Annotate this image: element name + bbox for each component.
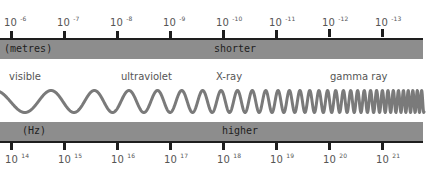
frequency-bar: (Hz) higher: [0, 122, 423, 141]
frequency-tick-label: 1017: [164, 152, 188, 165]
frequency-tick-mark: [63, 142, 66, 150]
frequency-tick-label: 1015: [58, 152, 82, 165]
tick-exponent: 21: [392, 152, 400, 159]
frequency-tick-mark: [381, 142, 384, 150]
tick-base: 10: [270, 154, 283, 165]
frequency-tick-label: 1019: [270, 152, 294, 165]
tick-base: 10: [5, 154, 18, 165]
tick-base: 10: [164, 154, 177, 165]
tick-exponent: 16: [127, 152, 135, 159]
frequency-direction-label: higher: [222, 125, 258, 136]
frequency-tick-label: 1021: [376, 152, 400, 165]
tick-exponent: 17: [180, 152, 188, 159]
frequency-tick-label: 1020: [323, 152, 347, 165]
tick-exponent: 20: [339, 152, 347, 159]
frequency-tick-label: 1016: [111, 152, 135, 165]
frequency-tick-mark: [169, 142, 172, 150]
tick-base: 10: [217, 154, 230, 165]
tick-exponent: 14: [21, 152, 29, 159]
frequency-tick-mark: [328, 142, 331, 150]
tick-base: 10: [111, 154, 124, 165]
frequency-tick-mark: [222, 142, 225, 150]
tick-base: 10: [323, 154, 336, 165]
frequency-tick-label: 1014: [5, 152, 29, 165]
frequency-tick-mark: [116, 142, 119, 150]
tick-base: 10: [376, 154, 389, 165]
frequency-tick-mark: [275, 142, 278, 150]
frequency-tick-mark: [10, 142, 13, 150]
tick-exponent: 19: [286, 152, 294, 159]
frequency-tick-label: 1018: [217, 152, 241, 165]
frequency-unit-label: (Hz): [22, 125, 46, 136]
tick-exponent: 18: [233, 152, 241, 159]
tick-exponent: 15: [74, 152, 82, 159]
tick-base: 10: [58, 154, 71, 165]
